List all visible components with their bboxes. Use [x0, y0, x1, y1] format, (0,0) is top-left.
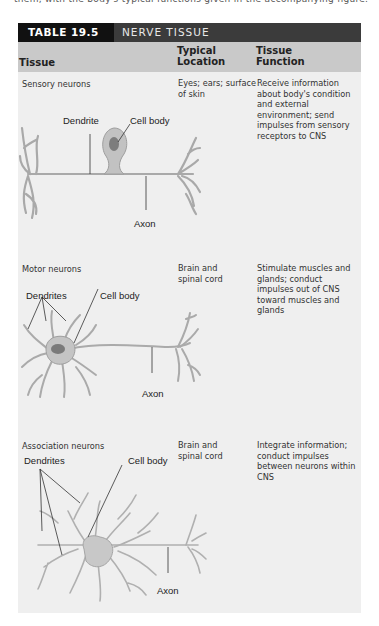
column-header-row: Tissue Typical Location Tissue Function [18, 42, 361, 72]
column-header-location: Typical Location [177, 45, 247, 67]
nerve-tissue-table: TABLE 19.5 NERVE TISSUE Tissue Typical L… [18, 23, 361, 613]
label-dendrites: Dendrites [24, 455, 65, 466]
table-title: NERVE TISSUE [122, 23, 210, 42]
column-header-function: Tissue Function [256, 45, 316, 67]
row-function: Receive information about body's conditi… [257, 78, 361, 141]
sensory-neuron-diagram [18, 118, 198, 228]
table-number: TABLE 19.5 [18, 23, 114, 42]
row-location: Brain and spinal cord [178, 263, 238, 284]
row-tissue: Association neurons [22, 441, 104, 451]
label-dendrites: Dendrites [26, 290, 67, 301]
association-neuron-diagram [18, 483, 218, 613]
label-dendrite: Dendrite [63, 115, 99, 126]
column-header-tissue: Tissue [19, 57, 55, 68]
label-cell-body: Cell body [130, 115, 170, 126]
cut-off-text-line: them, with the body's typical functions … [0, 0, 379, 6]
label-axon: Axon [134, 218, 156, 229]
label-cell-body: Cell body [128, 455, 168, 466]
row-function: Stimulate muscles and glands; conduct im… [257, 263, 357, 316]
label-cell-body: Cell body [100, 290, 140, 301]
motor-neuron-diagram [18, 305, 218, 405]
label-axon: Axon [142, 388, 164, 399]
top-fragment-text: them, with the body's typical functions … [14, 0, 368, 4]
table-title-bar: TABLE 19.5 NERVE TISSUE [18, 23, 361, 42]
row-location: Brain and spinal cord [178, 440, 238, 461]
row-tissue: Motor neurons [22, 264, 81, 274]
label-axon: Axon [157, 585, 179, 596]
row-location: Eyes; ears; surface of skin [178, 78, 256, 99]
row-tissue: Sensory neurons [22, 79, 91, 89]
row-function: Integrate information; conduct impulses … [257, 440, 361, 482]
